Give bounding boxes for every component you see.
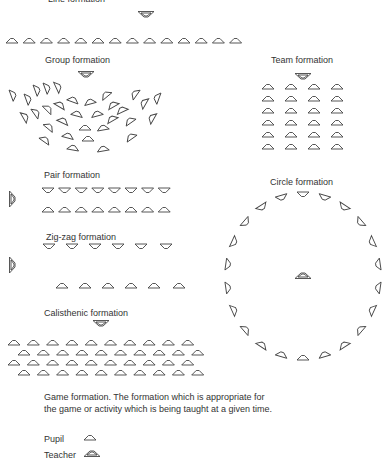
pupil-icon (285, 133, 297, 138)
pupil-icon (331, 109, 343, 114)
zigzag-formation-label: Zig-zag formation (46, 232, 116, 242)
pupil-icon (112, 244, 124, 249)
pupil-icon (97, 145, 110, 152)
pupil-icon (8, 341, 20, 346)
pupil-icon (192, 371, 204, 376)
pupil-icon (135, 244, 147, 249)
pupil-icon (40, 39, 52, 44)
pupil-icon (37, 351, 49, 356)
pupil-icon (115, 371, 127, 376)
pupil-icon (37, 371, 49, 376)
legend-pupil-label: Pupil (44, 434, 64, 444)
pupil-icon (85, 341, 97, 346)
pupil-icon (108, 188, 120, 193)
pupil-icon (75, 39, 87, 44)
pupil-icon (297, 192, 309, 197)
pupil-icon (6, 39, 18, 44)
pupil-icon (57, 371, 69, 376)
pupil-icon (144, 39, 156, 44)
teacher-icon (295, 273, 311, 279)
pupil-icon (56, 284, 68, 289)
pupil-icon (116, 105, 129, 114)
pupil-icon (109, 39, 121, 44)
pupil-icon (9, 89, 17, 102)
pupil-icon (318, 194, 331, 202)
pupil-icon (285, 109, 297, 114)
pupil-icon (59, 188, 71, 193)
pupil-icon (172, 371, 184, 376)
teacher-icon (10, 191, 16, 207)
pupil-icon (225, 281, 231, 294)
pupil-icon (82, 137, 94, 142)
pupil-icon (262, 133, 274, 138)
pupil-icon (256, 202, 269, 212)
pupil-icon (139, 97, 149, 110)
pupil-icon (331, 97, 343, 102)
pupil-icon (225, 258, 231, 271)
pupil-icon (192, 351, 204, 356)
pupil-icon (308, 109, 320, 114)
pupil-icon (124, 361, 136, 366)
pupil-icon (285, 145, 297, 150)
pupil-icon (43, 82, 51, 95)
pupil-icon (27, 361, 39, 366)
pupil-icon (105, 341, 117, 346)
teacher-icon (10, 257, 16, 273)
pupil-icon (143, 341, 155, 346)
group-formation-label: Group formation (45, 55, 110, 65)
pupil-icon (91, 110, 104, 117)
pupil-icon (95, 351, 107, 356)
pupil-icon (230, 304, 239, 317)
pupil-icon (173, 284, 185, 289)
pupil-icon (308, 121, 320, 126)
pupil-icon (162, 341, 174, 346)
legend-teacher-label: Teacher (44, 450, 76, 460)
pupil-icon (240, 324, 251, 336)
pupil-icon (308, 145, 320, 150)
pupil-icon (23, 39, 35, 44)
pupil-icon (230, 236, 239, 249)
pupil-icon (367, 304, 376, 317)
pupil-icon (27, 341, 39, 346)
pupil-icon (130, 88, 141, 100)
team-formation-label: Team formation (271, 55, 333, 65)
pupil-icon (331, 133, 343, 138)
pupil-icon (125, 188, 137, 193)
calisthenic-formation-label: Calisthenic formation (44, 308, 128, 318)
pupil-icon (262, 109, 274, 114)
pupil-icon (153, 92, 161, 105)
pupil-icon (47, 341, 59, 346)
pupil-icon (75, 208, 87, 213)
pupil-icon (331, 121, 343, 126)
pupil-icon (256, 340, 269, 350)
pupil-icon (262, 85, 274, 90)
pupil-icon (160, 244, 172, 249)
pupil-icon (18, 351, 30, 356)
teacher-icon (295, 74, 311, 80)
teacher-icon (138, 12, 154, 18)
pupil-icon (153, 351, 165, 356)
pupil-icon (162, 361, 174, 366)
pupil-icon (79, 126, 91, 131)
pupil-icon (212, 39, 224, 44)
pupil-icon (20, 111, 30, 124)
pupil-icon (54, 81, 63, 94)
pupil-icon (285, 121, 297, 126)
pupil-icon (285, 97, 297, 102)
pupil-icon (134, 371, 146, 376)
pupil-icon (262, 145, 274, 150)
pupil-icon (57, 116, 70, 125)
pair-formation-label: Pair formation (44, 170, 100, 180)
pupil-icon (355, 324, 366, 336)
pupil-icon (297, 356, 309, 361)
pupil-icon (92, 39, 104, 44)
pupil-icon (308, 97, 320, 102)
pupil-icon (195, 39, 207, 44)
pupil-icon (375, 281, 381, 294)
teacher-icon (78, 72, 94, 78)
pupil-icon (43, 244, 55, 249)
pupil-icon (147, 112, 157, 125)
pupil-icon (42, 103, 54, 115)
pupil-icon (31, 107, 42, 119)
pupil-icon (308, 133, 320, 138)
